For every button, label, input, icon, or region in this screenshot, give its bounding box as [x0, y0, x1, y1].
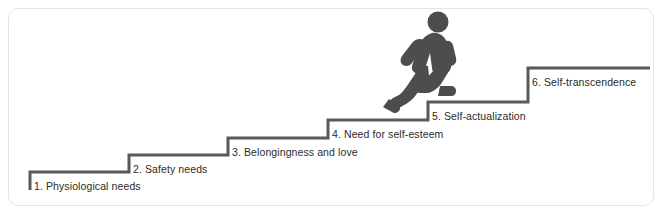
person-head	[428, 12, 449, 33]
walking-person-icon	[383, 12, 456, 114]
step-label-3: 3. Belongingness and love	[232, 146, 358, 158]
step-label-1: 1. Physiological needs	[34, 180, 141, 192]
diagram-canvas: 1. Physiological needs 2. Safety needs 3…	[0, 0, 663, 215]
step-label-4: 4. Need for self-esteem	[332, 128, 443, 140]
person-front-foot	[438, 86, 456, 96]
step-label-5: 5. Self-actualization	[432, 110, 526, 122]
step-label-6: 6. Self-transcendence	[532, 76, 636, 88]
step-label-2: 2. Safety needs	[133, 163, 207, 175]
